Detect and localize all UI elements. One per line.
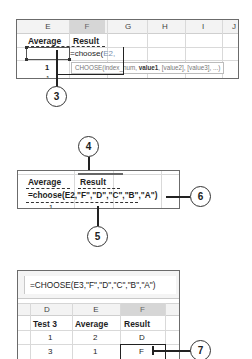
grid-line <box>17 60 239 61</box>
cell-f1-result[interactable]: Result <box>80 178 106 187</box>
callout-3: 3 <box>46 86 67 107</box>
cell-f1-result[interactable]: Result <box>73 37 99 46</box>
callout-4: 4 <box>78 136 99 157</box>
column-header-i[interactable]: I <box>189 23 217 31</box>
cell-e1-average[interactable]: Average <box>28 178 61 187</box>
cell-f1-result[interactable]: Result <box>124 320 150 329</box>
column-header-d[interactable]: D <box>32 306 62 314</box>
copy-marquee <box>26 188 70 189</box>
highlight-box <box>57 47 124 75</box>
cell-e3[interactable]: 1 <box>45 64 49 72</box>
callout-5: 5 <box>87 226 108 247</box>
cell-e3[interactable]: 1 <box>49 204 53 209</box>
spreadsheet-panel-1: E F G H I J Average Result =choose(E2, 1… <box>16 19 239 79</box>
spreadsheet-panel-2: Average Result =choose(E2,"F","D","C","B… <box>17 170 180 209</box>
callout-leader-3 <box>56 50 58 87</box>
callout-leader-7 <box>152 350 191 352</box>
active-cell-f3 <box>120 344 166 359</box>
formula-bar-text: =CHOOSE(E3,"F","D","C","B","A") <box>30 281 156 289</box>
cell-e1-average[interactable]: Average <box>28 37 61 46</box>
fill-handle[interactable] <box>25 46 28 49</box>
cell-d1-test3[interactable]: Test 3 <box>33 320 57 329</box>
copy-marquee <box>78 188 120 189</box>
column-header-f[interactable]: F <box>120 303 165 316</box>
grid-line <box>30 303 31 359</box>
cell-e4[interactable]: 1 <box>46 76 50 79</box>
cell-e2-formula[interactable]: =choose(E2,"F","D","C","B","A") <box>28 191 157 199</box>
cell-d3[interactable]: 3 <box>48 348 52 356</box>
grid-line <box>72 303 73 359</box>
cell-f2[interactable]: D <box>139 334 145 342</box>
grid-line <box>18 330 180 331</box>
callout-leader-7-tick <box>152 346 154 355</box>
callout-7: 7 <box>190 340 211 359</box>
copy-marquee <box>26 202 138 203</box>
grid-line <box>161 171 162 209</box>
cell-d2[interactable]: 1 <box>48 334 52 342</box>
tooltip-arg-value1[interactable]: value1 <box>139 64 159 71</box>
column-f-underline <box>78 173 123 175</box>
formula-bar: =CHOOSE(E3,"F","D","C","B","A") <box>18 271 180 299</box>
column-header-f[interactable]: F <box>69 20 105 33</box>
column-header-j[interactable]: J <box>224 23 239 31</box>
callout-leader-5 <box>97 206 99 226</box>
column-header-g[interactable]: G <box>114 23 142 31</box>
cell-e3[interactable]: 1 <box>93 348 97 356</box>
cell-e2[interactable]: 2 <box>93 334 97 342</box>
callout-leader-6 <box>166 196 190 198</box>
column-header-e[interactable]: E <box>31 23 65 31</box>
spreadsheet-panel-3: =CHOOSE(E3,"F","D","C","B","A") D E F Te… <box>17 270 180 359</box>
callout-6: 6 <box>190 186 211 207</box>
column-header-e[interactable]: E <box>76 306 116 314</box>
fill-handle[interactable] <box>25 58 28 61</box>
cell-e1-average[interactable]: Average <box>75 320 108 329</box>
formula-bar-input[interactable]: =CHOOSE(E3,"F","D","C","B","A") <box>24 276 176 294</box>
tooltip-rest-args: , [value2], [value3], ...) <box>158 64 220 71</box>
column-header-h[interactable]: H <box>151 23 179 31</box>
